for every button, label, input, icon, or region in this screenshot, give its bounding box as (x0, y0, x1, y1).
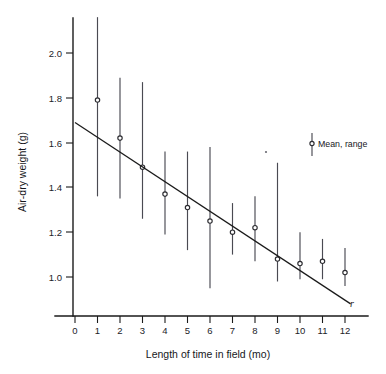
x-tick-label-4: 4 (162, 325, 167, 336)
legend-mean-marker (310, 141, 314, 145)
mean-marker-month-10 (298, 261, 302, 265)
y-axis-title: Air-dry weight (g) (16, 132, 28, 212)
mean-marker-month-2 (118, 136, 122, 140)
y-tick-label-1.2: 1.2 (49, 227, 62, 238)
x-tick-label-6: 6 (207, 325, 212, 336)
legend-label: Mean, range (318, 139, 367, 149)
y-tick-label-1.6: 1.6 (49, 138, 62, 149)
x-tick-label-0: 0 (72, 325, 77, 336)
y-tick-label-1.4: 1.4 (49, 182, 62, 193)
x-tick-label-10: 10 (295, 325, 306, 336)
y-tick-label-1.0: 1.0 (49, 272, 62, 283)
x-tick-label-8: 8 (252, 325, 257, 336)
mean-marker-month-9 (275, 257, 279, 261)
mean-marker-month-12 (343, 270, 347, 274)
y-axis-ticks (66, 53, 73, 277)
mean-marker-month-6 (208, 219, 212, 223)
x-tick-label-7: 7 (230, 325, 235, 336)
x-tick-label-3: 3 (140, 325, 145, 336)
chart-figure: 2.0 1.8 1.6 1.4 1.2 1.0 0 1 2 (0, 0, 386, 374)
mean-marker-month-5 (185, 205, 189, 209)
scatter-plot-canvas: 2.0 1.8 1.6 1.4 1.2 1.0 0 1 2 (0, 0, 386, 374)
x-tick-label-9: 9 (275, 325, 280, 336)
x-axis-title: Length of time in field (mo) (146, 348, 270, 360)
x-tick-label-2: 2 (117, 325, 122, 336)
y-tick-label-1.8: 1.8 (49, 93, 62, 104)
x-axis-ticks (75, 316, 345, 323)
regression-r-label: r (350, 298, 354, 309)
x-tick-label-11: 11 (318, 325, 328, 336)
y-tick-label-2.0: 2.0 (49, 48, 62, 59)
mean-marker-month-8 (253, 226, 257, 230)
mean-marker-month-7 (230, 230, 234, 234)
x-tick-label-1: 1 (95, 325, 100, 336)
x-tick-label-12: 12 (340, 325, 351, 336)
x-tick-label-5: 5 (185, 325, 190, 336)
x-axis-tick-labels: 0 1 2 3 4 5 6 7 8 9 10 11 12 (72, 325, 350, 336)
mean-marker-month-1 (95, 98, 99, 102)
mean-marker-month-11 (320, 259, 324, 263)
legend: Mean, range (310, 133, 368, 156)
mean-marker-month-4 (163, 192, 167, 196)
data-series-mean-range (95, 17, 347, 288)
scan-speck (265, 151, 267, 153)
regression-line (75, 122, 351, 303)
y-axis-tick-labels: 2.0 1.8 1.6 1.4 1.2 1.0 (49, 48, 62, 283)
